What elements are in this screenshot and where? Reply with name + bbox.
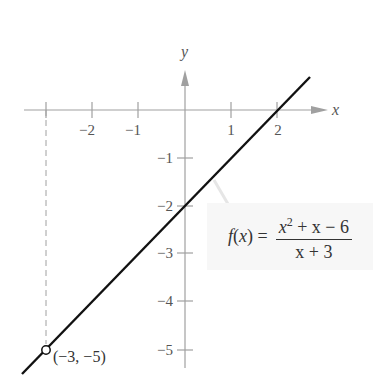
formula-numerator: x2 + x − 6 <box>276 212 352 240</box>
x-axis-name: x <box>331 101 339 118</box>
x-tick-label: 2 <box>274 122 282 138</box>
formula-lhs: f(x) = <box>228 226 268 247</box>
y-tick-label: −1 <box>157 150 173 166</box>
x-axis: x −2 −1 1 2 <box>24 101 339 138</box>
x-tick-label: 1 <box>227 122 235 138</box>
y-tick-label: −5 <box>157 342 173 358</box>
y-tick-label: −4 <box>157 293 173 309</box>
formula-denominator: x + 3 <box>295 240 332 262</box>
y-tick-label: −3 <box>157 245 173 261</box>
x-tick-label: −1 <box>125 122 141 138</box>
formula-fraction: x2 + x − 6 x + 3 <box>276 212 352 262</box>
x-axis-arrow-icon <box>311 106 328 114</box>
point-label: (−3, −5) <box>53 348 106 366</box>
open-point-icon <box>42 346 50 354</box>
formula-label: f(x) = x2 + x − 6 x + 3 <box>207 203 373 270</box>
y-tick-label: −2 <box>157 198 173 214</box>
y-axis-arrow-icon <box>181 70 189 86</box>
y-axis: y −1 −2 −3 −4 −5 <box>157 43 193 368</box>
y-axis-name: y <box>179 43 189 61</box>
formula-pointer <box>214 180 228 204</box>
graph: x −2 −1 1 2 y −1 −2 −3 −4 −5 (−3, −5) <box>0 0 392 386</box>
x-tick-label: −2 <box>79 122 95 138</box>
